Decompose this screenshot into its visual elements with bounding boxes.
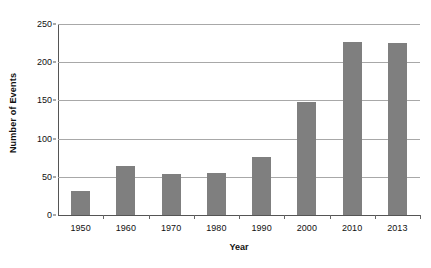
y-axis-title: Number of Events xyxy=(0,0,26,225)
x-tick-label: 2000 xyxy=(297,223,317,233)
y-tick-label: 200 xyxy=(37,57,52,67)
x-tick-mark xyxy=(330,215,331,219)
x-tick-mark xyxy=(284,215,285,219)
x-tick-mark xyxy=(375,215,376,219)
y-tick-label: 150 xyxy=(37,95,52,105)
x-tick-mark xyxy=(149,215,150,219)
x-tick-label: 2010 xyxy=(342,223,362,233)
y-tick-label: 0 xyxy=(47,210,52,220)
bar-1980 xyxy=(207,173,226,215)
y-tick-label: 250 xyxy=(37,19,52,29)
bar-2000 xyxy=(297,102,316,215)
y-axis-tick-labels: 050100150200250 xyxy=(26,0,56,225)
x-axis-title: Year xyxy=(58,242,420,252)
x-tick-mark xyxy=(103,215,104,219)
x-tick-label: 1960 xyxy=(116,223,136,233)
x-tick-label: 1990 xyxy=(252,223,272,233)
x-tick-label: 1950 xyxy=(71,223,91,233)
y-axis-title-label: Number of Events xyxy=(8,72,18,152)
plot-area xyxy=(58,24,420,215)
x-tick-label: 1980 xyxy=(206,223,226,233)
y-tick-mark xyxy=(53,215,56,216)
y-tick-mark xyxy=(53,100,56,101)
bar-2010 xyxy=(343,42,362,215)
x-tick-mark xyxy=(420,215,421,219)
bar-2013 xyxy=(388,43,407,215)
bar-1950 xyxy=(71,191,90,215)
x-tick-mark xyxy=(239,215,240,219)
y-tick-label: 50 xyxy=(42,172,52,182)
bar-1990 xyxy=(252,157,271,215)
y-tick-label: 100 xyxy=(37,134,52,144)
x-tick-label: 2013 xyxy=(387,223,407,233)
y-tick-mark xyxy=(53,176,56,177)
bar-1960 xyxy=(116,166,135,215)
y-tick-mark xyxy=(53,24,56,25)
bar-chart: Number of Events 050100150200250 1950196… xyxy=(0,0,431,268)
bar-1970 xyxy=(162,174,181,215)
x-tick-mark xyxy=(194,215,195,219)
x-tick-label: 1970 xyxy=(161,223,181,233)
y-tick-mark xyxy=(53,62,56,63)
y-tick-mark xyxy=(53,138,56,139)
bars-layer xyxy=(58,24,420,215)
